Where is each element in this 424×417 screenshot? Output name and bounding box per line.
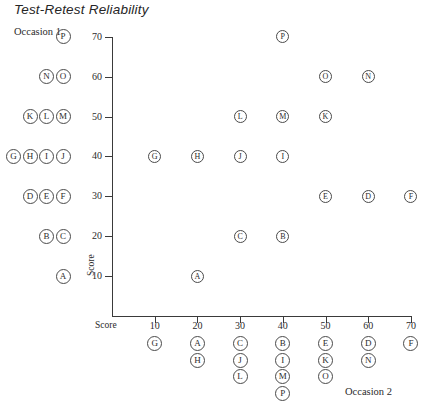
- data-point-marker: H: [191, 150, 204, 163]
- data-point-marker: G: [148, 150, 161, 163]
- y-tick-label: 50: [76, 111, 102, 122]
- y-tick-mark: [105, 77, 112, 78]
- y-tick-label: 40: [76, 150, 102, 161]
- x-margin-marker: C: [233, 336, 248, 351]
- y-tick-mark: [105, 276, 112, 277]
- data-point-marker: A: [191, 270, 204, 283]
- y-tick-mark: [105, 236, 112, 237]
- y-margin-marker: F: [56, 189, 71, 204]
- y-margin-marker: P: [56, 29, 71, 44]
- data-point-marker: O: [319, 70, 332, 83]
- x-tick-label: 50: [311, 320, 341, 331]
- data-point-marker: M: [276, 110, 289, 123]
- y-margin-marker: A: [56, 269, 71, 284]
- y-margin-marker: N: [39, 69, 54, 84]
- y-margin-marker: D: [23, 189, 38, 204]
- x-tick-label: 10: [140, 320, 170, 331]
- x-margin-marker: F: [403, 336, 418, 351]
- y-margin-marker: E: [39, 189, 54, 204]
- x-margin-marker: P: [275, 386, 290, 401]
- y-tick-label: 60: [76, 71, 102, 82]
- y-tick-mark: [105, 156, 112, 157]
- data-point-marker: I: [276, 150, 289, 163]
- x-margin-marker: I: [275, 353, 290, 368]
- data-point-marker: E: [319, 190, 332, 203]
- y-tick-label: 20: [76, 230, 102, 241]
- x-margin-marker: K: [318, 353, 333, 368]
- x-margin-marker: J: [233, 353, 248, 368]
- x-axis-score-label: Score: [95, 320, 117, 330]
- x-margin-marker: N: [361, 353, 376, 368]
- y-axis-line: [112, 37, 113, 316]
- x-margin-marker: D: [361, 336, 376, 351]
- y-margin-marker: C: [56, 229, 71, 244]
- chart-title: Test-Retest Reliability: [14, 2, 149, 17]
- y-tick-label: 30: [76, 190, 102, 201]
- data-point-marker: L: [234, 110, 247, 123]
- y-margin-marker: G: [6, 149, 21, 164]
- x-margin-marker: B: [275, 336, 290, 351]
- y-margin-marker: I: [39, 149, 54, 164]
- y-margin-marker: L: [39, 109, 54, 124]
- data-point-marker: C: [234, 230, 247, 243]
- y-tick-mark: [105, 117, 112, 118]
- x-tick-label: 40: [268, 320, 298, 331]
- x-margin-marker: M: [275, 369, 290, 384]
- x-margin-marker: L: [233, 369, 248, 384]
- y-margin-marker: K: [23, 109, 38, 124]
- x-axis-line: [112, 316, 411, 317]
- y-margin-marker: H: [23, 149, 38, 164]
- data-point-marker: B: [276, 230, 289, 243]
- x-tick-label: 60: [353, 320, 383, 331]
- x-tick-label: 20: [182, 320, 212, 331]
- y-tick-mark: [105, 196, 112, 197]
- x-tick-label: 30: [225, 320, 255, 331]
- x-axis-title: Occasion 2: [345, 386, 392, 397]
- y-margin-marker: M: [56, 109, 71, 124]
- x-margin-marker: A: [190, 336, 205, 351]
- y-margin-marker: J: [56, 149, 71, 164]
- x-margin-marker: E: [318, 336, 333, 351]
- data-point-marker: D: [362, 190, 375, 203]
- x-tick-label: 70: [396, 320, 424, 331]
- x-margin-marker: O: [318, 369, 333, 384]
- y-margin-marker: B: [39, 229, 54, 244]
- data-point-marker: N: [362, 70, 375, 83]
- data-point-marker: F: [404, 190, 417, 203]
- y-axis-title: Occasion 1: [14, 26, 61, 37]
- y-tick-mark: [105, 37, 112, 38]
- y-tick-label: 70: [76, 31, 102, 42]
- data-point-marker: P: [276, 30, 289, 43]
- y-margin-marker: O: [56, 69, 71, 84]
- x-margin-marker: H: [190, 353, 205, 368]
- x-margin-marker: G: [147, 336, 162, 351]
- chart-canvas: Test-Retest Reliability Occasion 1 Occas…: [0, 0, 424, 417]
- data-point-marker: J: [234, 150, 247, 163]
- data-point-marker: K: [319, 110, 332, 123]
- y-tick-label: 10: [76, 270, 102, 281]
